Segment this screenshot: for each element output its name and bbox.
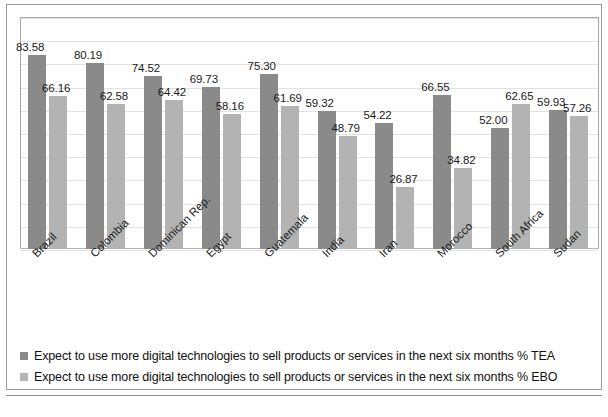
bar-value-label: 74.52 [132, 62, 160, 74]
bar-value-label: 59.93 [537, 96, 565, 108]
bar-ebo[interactable] [223, 114, 241, 249]
bar-group: 59.9357.26 [541, 17, 599, 249]
chart-frame: 83.5866.1680.1962.5874.5264.4269.7358.16… [6, 4, 602, 390]
bar-value-label: 83.58 [16, 41, 44, 53]
bar-ebo[interactable] [396, 187, 414, 249]
bar-value-label: 26.87 [389, 173, 417, 185]
bar-value-label: 54.22 [363, 109, 391, 121]
bar-group: 59.3248.79 [310, 17, 368, 249]
bar-group: 66.5534.82 [425, 17, 483, 249]
bar-tea[interactable] [144, 76, 162, 249]
bar-value-label: 48.79 [332, 122, 360, 134]
bar-value-label: 62.58 [100, 90, 128, 102]
bar-group: 83.5866.16 [20, 17, 78, 249]
bar-value-label: 66.55 [421, 81, 449, 93]
figure-caption [0, 401, 608, 417]
bar-value-label: 61.69 [274, 92, 302, 104]
legend-swatch-ebo [20, 373, 28, 381]
bar-tea[interactable] [375, 123, 393, 249]
legend-item-tea[interactable]: Expect to use more digital technologies … [20, 345, 599, 366]
bar-value-label: 66.16 [42, 82, 70, 94]
chart-figure: 83.5866.1680.1962.5874.5264.4269.7358.16… [0, 0, 608, 417]
bar-tea[interactable] [491, 128, 509, 249]
x-axis-labels: BrazilColombiaDominican Rep.EgyptGuatema… [20, 251, 599, 335]
bar-ebo[interactable] [49, 96, 67, 249]
bar-value-label: 34.82 [447, 154, 475, 166]
bar-tea[interactable] [433, 95, 451, 249]
bar-group: 69.7358.16 [194, 17, 252, 249]
bar-group: 54.2226.87 [367, 17, 425, 249]
legend-item-ebo[interactable]: Expect to use more digital technologies … [20, 366, 599, 387]
bar-value-label: 62.65 [505, 90, 533, 102]
bar-value-label: 59.32 [306, 97, 334, 109]
bar-value-label: 69.73 [190, 73, 218, 85]
bar-tea[interactable] [549, 110, 567, 249]
legend-swatch-tea [20, 352, 28, 360]
bar-ebo[interactable] [339, 136, 357, 249]
legend-label-ebo: Expect to use more digital technologies … [34, 370, 557, 384]
legend-label-tea: Expect to use more digital technologies … [34, 349, 555, 363]
bar-value-label: 57.26 [563, 102, 591, 114]
bar-value-label: 64.42 [158, 86, 186, 98]
caption-divider [6, 395, 602, 396]
bar-value-label: 52.00 [479, 114, 507, 126]
bar-value-label: 80.19 [74, 49, 102, 61]
chart-legend: Expect to use more digital technologies … [20, 345, 599, 387]
bar-group: 80.1962.58 [78, 17, 136, 249]
bar-value-label: 75.30 [248, 60, 276, 72]
bar-value-label: 58.16 [216, 100, 244, 112]
bars-layer: 83.5866.1680.1962.5874.5264.4269.7358.16… [20, 17, 599, 249]
